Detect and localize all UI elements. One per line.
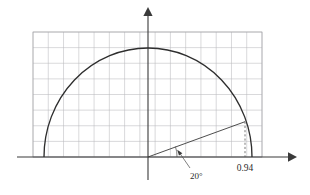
angle-arc-mark (175, 147, 177, 158)
radius-group (148, 122, 245, 157)
x-axis-arrow (288, 152, 297, 162)
angle-leader-arrowhead (177, 150, 182, 156)
x-intercept-label: 0.94 (237, 163, 254, 173)
angle-leader-line (180, 154, 190, 169)
geometry-figure: 20° 0.94 (0, 0, 310, 195)
radius-line-20deg (148, 122, 245, 157)
figure-canvas: 20° 0.94 (0, 0, 310, 195)
y-axis-arrow (143, 7, 152, 16)
angle-label: 20° (190, 171, 203, 181)
